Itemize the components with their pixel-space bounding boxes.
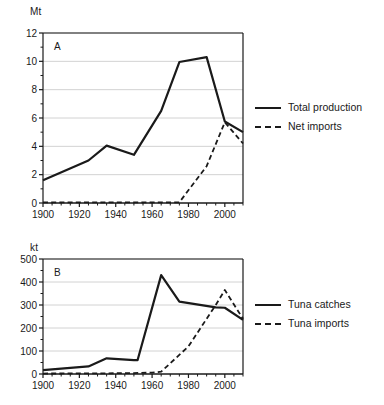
panel-a-legend: Total production Net imports <box>255 98 362 136</box>
svg-text:100: 100 <box>20 346 37 357</box>
svg-text:500: 500 <box>20 254 37 265</box>
svg-text:0: 0 <box>31 198 37 209</box>
legend-label-net-imports: Net imports <box>288 121 342 132</box>
svg-text:1940: 1940 <box>105 380 128 391</box>
legend-item-tuna-imports: Tuna imports <box>255 314 351 333</box>
solid-line-key-icon <box>255 300 281 310</box>
svg-text:1960: 1960 <box>141 380 164 391</box>
legend-label-tuna-catches: Tuna catches <box>288 299 351 310</box>
chart-panel-b: kt 0100200300400500190019201940196019802… <box>0 240 384 405</box>
svg-text:10: 10 <box>26 56 38 67</box>
svg-text:12: 12 <box>26 28 38 39</box>
svg-text:300: 300 <box>20 300 37 311</box>
svg-text:1900: 1900 <box>32 380 55 391</box>
svg-text:6: 6 <box>31 113 37 124</box>
svg-text:8: 8 <box>31 84 37 95</box>
legend-label-total-production: Total production <box>288 102 362 113</box>
svg-text:1920: 1920 <box>68 380 91 391</box>
svg-text:2: 2 <box>31 169 37 180</box>
svg-text:4: 4 <box>31 141 37 152</box>
solid-line-key-icon <box>255 103 281 113</box>
svg-text:1920: 1920 <box>68 209 91 220</box>
panel-b-legend: Tuna catches Tuna imports <box>255 295 351 333</box>
chart-panel-a: Mt 024681012190019201940196019802000A To… <box>0 0 384 222</box>
svg-text:0: 0 <box>31 369 37 380</box>
legend-item-net-imports: Net imports <box>255 117 362 136</box>
dashed-line-key-icon <box>255 319 281 329</box>
svg-text:1960: 1960 <box>141 209 164 220</box>
figure-container: Mt 024681012190019201940196019802000A To… <box>0 0 384 405</box>
svg-text:2000: 2000 <box>214 209 237 220</box>
dashed-line-key-icon <box>255 122 281 132</box>
svg-text:1940: 1940 <box>105 209 128 220</box>
svg-text:1980: 1980 <box>177 209 200 220</box>
svg-text:400: 400 <box>20 277 37 288</box>
legend-label-tuna-imports: Tuna imports <box>288 318 349 329</box>
svg-text:2000: 2000 <box>214 380 237 391</box>
svg-text:B: B <box>54 267 61 278</box>
legend-item-total-production: Total production <box>255 98 362 117</box>
svg-text:1900: 1900 <box>32 209 55 220</box>
svg-text:200: 200 <box>20 323 37 334</box>
legend-item-tuna-catches: Tuna catches <box>255 295 351 314</box>
svg-text:1980: 1980 <box>177 380 200 391</box>
svg-text:A: A <box>54 41 61 52</box>
